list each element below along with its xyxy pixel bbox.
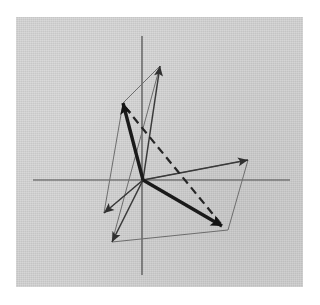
v-right-thin <box>143 160 248 180</box>
edge-downtip-to-downrighttip <box>112 230 228 242</box>
arrowheads-group <box>101 65 249 244</box>
edge-upleft-to-downlefttip <box>104 103 123 213</box>
figure-root <box>0 0 320 305</box>
v-up-thin <box>143 66 160 180</box>
v-down-thin <box>112 180 143 242</box>
vector-diagram-canvas <box>0 0 320 305</box>
v-down-right-thick <box>143 180 222 226</box>
thin-vectors-group <box>104 66 248 242</box>
edge-righttip-to-downrighttip <box>228 160 248 230</box>
v-up-left-thick <box>123 103 143 180</box>
